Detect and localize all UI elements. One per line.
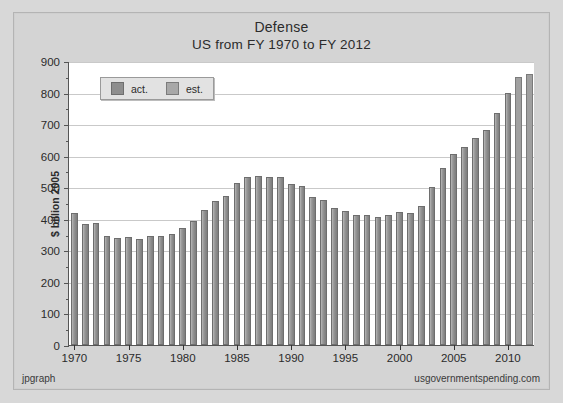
bar-2012 xyxy=(526,74,533,345)
bar-1998 xyxy=(375,217,382,345)
x-axis-label: 1975 xyxy=(116,352,142,364)
chart-legend[interactable]: act.est. xyxy=(100,77,214,100)
y-axis-title: $ billion 2005 xyxy=(49,171,61,237)
bar-1973 xyxy=(104,236,111,345)
bar-1993 xyxy=(320,200,327,345)
bar-1979 xyxy=(169,234,176,345)
y-axis-label: 600 xyxy=(41,151,60,163)
x-axis-tick xyxy=(454,345,455,350)
x-axis-tick xyxy=(400,345,401,350)
footer-credit-right: usgovernmentspending.com xyxy=(414,373,540,384)
bar-1985 xyxy=(234,183,241,346)
bar-1976 xyxy=(136,239,143,345)
bar-2009 xyxy=(494,113,501,345)
bar-2007 xyxy=(472,138,479,345)
x-axis-label: 1980 xyxy=(170,352,196,364)
page-title: Defense xyxy=(14,19,549,36)
bar-2001 xyxy=(407,213,414,345)
legend-swatch-icon xyxy=(166,82,179,95)
bar-1989 xyxy=(277,177,284,345)
bar-2008 xyxy=(483,130,490,345)
y-axis-label: 300 xyxy=(41,245,60,257)
bar-1975 xyxy=(125,237,132,345)
bar-1970 xyxy=(71,213,78,345)
y-axis-label: 0 xyxy=(54,340,60,352)
bar-1984 xyxy=(223,196,230,345)
x-axis-tick xyxy=(345,345,346,350)
bar-2011 xyxy=(515,77,522,345)
bar-1992 xyxy=(309,197,316,345)
bar-series xyxy=(69,62,534,345)
bar-1980 xyxy=(179,228,186,345)
bar-1971 xyxy=(82,224,89,345)
y-axis-label: 200 xyxy=(41,277,60,289)
plot-wrapper: $ billion 2005 0100200300400500600700800… xyxy=(68,62,534,346)
legend-item-act[interactable]: act. xyxy=(111,82,148,95)
x-axis-tick xyxy=(508,345,509,350)
bar-1997 xyxy=(364,215,371,345)
x-axis-label: 2010 xyxy=(495,352,521,364)
y-axis-label: 900 xyxy=(41,56,60,68)
bar-1977 xyxy=(147,236,154,345)
bar-1987 xyxy=(255,176,262,345)
bar-1994 xyxy=(331,208,338,345)
legend-label: act. xyxy=(131,83,148,95)
bar-1981 xyxy=(190,221,197,345)
bar-1991 xyxy=(299,186,306,345)
y-axis-label: 400 xyxy=(41,214,60,226)
bar-1983 xyxy=(212,201,219,345)
chart-subtitle: US from FY 1970 to FY 2012 xyxy=(14,36,549,53)
legend-label: est. xyxy=(186,83,203,95)
x-axis-label: 2005 xyxy=(441,352,467,364)
bar-1988 xyxy=(266,177,273,345)
bar-1978 xyxy=(158,236,165,345)
bar-1974 xyxy=(114,238,121,345)
legend-swatch-icon xyxy=(111,82,124,95)
y-axis-tick xyxy=(64,346,69,347)
plot-area: 0100200300400500600700800900 19701975198… xyxy=(68,62,534,346)
x-axis-tick xyxy=(291,345,292,350)
x-axis-label: 1985 xyxy=(224,352,250,364)
bar-1999 xyxy=(385,215,392,345)
footer-credit-left: jpgraph xyxy=(22,373,55,384)
y-axis-label: 100 xyxy=(41,308,60,320)
bar-2003 xyxy=(429,187,436,345)
x-axis-tick xyxy=(237,345,238,350)
y-axis-label: 700 xyxy=(41,119,60,131)
bar-1996 xyxy=(353,215,360,345)
bar-2004 xyxy=(440,168,447,345)
bar-1986 xyxy=(244,177,251,346)
chart-frame: Defense US from FY 1970 to FY 2012 $ bil… xyxy=(13,12,550,390)
bar-2010 xyxy=(505,93,512,345)
y-axis-label: 500 xyxy=(41,182,60,194)
bar-1982 xyxy=(201,210,208,345)
bar-1990 xyxy=(288,184,295,345)
x-axis-tick xyxy=(74,345,75,350)
bar-2005 xyxy=(450,154,457,345)
x-axis-label: 1995 xyxy=(333,352,359,364)
bar-1972 xyxy=(93,223,100,345)
bar-2000 xyxy=(396,212,403,345)
bar-2002 xyxy=(418,206,425,345)
bar-2006 xyxy=(461,147,468,345)
x-axis-tick xyxy=(183,345,184,350)
x-axis-label: 2000 xyxy=(387,352,413,364)
y-axis-label: 800 xyxy=(41,88,60,100)
x-axis-label: 1990 xyxy=(278,352,304,364)
legend-item-est[interactable]: est. xyxy=(166,82,203,95)
bar-1995 xyxy=(342,211,349,345)
x-axis-tick xyxy=(129,345,130,350)
x-axis-label: 1970 xyxy=(62,352,88,364)
chart-title-block: Defense US from FY 1970 to FY 2012 xyxy=(14,19,549,53)
